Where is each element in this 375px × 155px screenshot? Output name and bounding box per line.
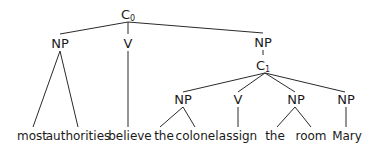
- edge-np-authorities: [60, 51, 78, 127]
- word-authorities: authorities: [46, 129, 111, 143]
- edge-c0-np: [60, 22, 128, 34]
- terminal-words: most authorities believe the colonel ass…: [17, 129, 362, 143]
- word-believe: believe: [108, 129, 152, 143]
- edge-np-room: [295, 107, 311, 127]
- edge-np-the2: [277, 107, 295, 127]
- edge-np-colonel: [183, 107, 195, 127]
- tree-edges: [33, 22, 346, 127]
- edge-np-the: [160, 107, 183, 127]
- word-the-2: the: [265, 129, 285, 143]
- word-mary: Mary: [332, 129, 362, 143]
- word-most: most: [17, 129, 47, 143]
- edge-c1-np3: [265, 73, 295, 92]
- tree-nodes: C0 NP V NP C1 NP V NP NP: [51, 7, 355, 107]
- node-np-embedded-subject: NP: [174, 92, 192, 107]
- edge-c1-np: [183, 73, 265, 92]
- node-v-main: V: [124, 36, 133, 51]
- word-room: room: [295, 129, 326, 143]
- node-v-embedded: V: [234, 92, 243, 107]
- node-c1: C1: [256, 58, 270, 74]
- edge-c1-np4: [265, 73, 345, 92]
- node-c0: C0: [121, 7, 135, 23]
- syntax-tree: C0 NP V NP C1 NP V NP NP most authoritie…: [0, 0, 375, 155]
- word-assign: assign: [219, 129, 257, 143]
- node-np-object: NP: [254, 35, 272, 50]
- node-np-embedded-object2: NP: [337, 92, 355, 107]
- edge-c0-np2: [128, 22, 263, 33]
- word-colonel: colonel: [176, 129, 219, 143]
- word-the-1: the: [154, 129, 174, 143]
- node-np-embedded-object1: NP: [287, 92, 305, 107]
- node-np-subject: NP: [51, 36, 69, 51]
- edge-np-most: [33, 51, 60, 127]
